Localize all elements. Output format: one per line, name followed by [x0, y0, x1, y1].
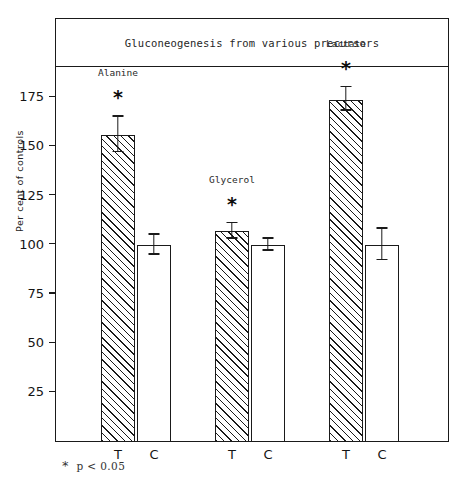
figure-gluconeogenesis-bar-chart: Gluconeogenesis from various precursors …: [0, 0, 458, 491]
error-bar-cap-upper: [263, 237, 274, 239]
error-bar-cap-upper: [113, 115, 124, 117]
x-tick-label-alanine-c: C: [149, 447, 158, 462]
error-bar-cap-lower: [227, 237, 238, 239]
y-tick-50: 50: [49, 342, 55, 343]
significance-asterisk-glycerol: *: [227, 195, 237, 214]
error-bar-glycerol-t: [231, 222, 232, 238]
y-tick-label-175: 175: [19, 89, 44, 104]
error-bar-cap-lower: [113, 151, 124, 153]
bar-alanine-c: [137, 245, 171, 442]
chart-title-band: Gluconeogenesis from various precursors: [56, 19, 448, 67]
footnote-text: p < 0.05: [77, 460, 126, 472]
bar-alanine-t: [101, 135, 135, 442]
y-tick-25: 25: [49, 391, 55, 392]
error-bar-cap-upper: [227, 222, 238, 224]
error-bar-cap-lower: [341, 109, 352, 111]
y-tick-label-125: 125: [19, 187, 44, 202]
error-bar-cap-lower: [149, 253, 160, 255]
y-tick-label-25: 25: [27, 384, 44, 399]
bar-glycerol-c: [251, 245, 285, 442]
x-tick-label-glycerol-t: T: [228, 447, 236, 462]
y-tick-175: 175: [49, 96, 55, 97]
bar-glycerol-t: [215, 231, 249, 442]
plot-area: 255075100125150175 *Alanine*Glycerol*Lac…: [55, 66, 449, 442]
y-tick-label-150: 150: [19, 138, 44, 153]
significance-asterisk-lactate: *: [341, 59, 351, 78]
error-bar-cap-upper: [377, 227, 388, 229]
error-bar-lactate-c: [381, 227, 382, 258]
y-tick-label-75: 75: [27, 286, 44, 301]
y-tick-150: 150: [49, 145, 55, 146]
y-tick-label-50: 50: [27, 335, 44, 350]
y-tick-label-100: 100: [19, 236, 44, 251]
bar-lactate-c: [365, 245, 399, 442]
error-bar-lactate-t: [345, 86, 346, 110]
footnote: * p < 0.05: [62, 459, 125, 472]
group-label-glycerol: Glycerol: [209, 174, 255, 185]
error-bar-glycerol-c: [267, 237, 268, 249]
significance-asterisk-alanine: *: [113, 88, 123, 107]
error-bar-cap-lower: [263, 249, 274, 251]
group-label-alanine: Alanine: [98, 67, 138, 78]
x-tick-label-lactate-c: C: [377, 447, 386, 462]
x-tick-label-lactate-t: T: [342, 447, 350, 462]
y-tick-75: 75: [49, 292, 55, 293]
y-tick-125: 125: [49, 194, 55, 195]
group-label-lactate: Lactate: [326, 38, 366, 49]
error-bar-cap-upper: [149, 233, 160, 235]
error-bar-alanine-t: [117, 115, 118, 150]
bar-lactate-t: [329, 100, 363, 443]
y-tick-100: 100: [49, 243, 55, 244]
asterisk-icon: *: [62, 459, 69, 472]
error-bar-cap-upper: [341, 86, 352, 88]
error-bar-cap-lower: [377, 259, 388, 261]
x-tick-label-glycerol-c: C: [263, 447, 272, 462]
error-bar-alanine-c: [153, 233, 154, 253]
y-axis-line: [55, 66, 56, 440]
